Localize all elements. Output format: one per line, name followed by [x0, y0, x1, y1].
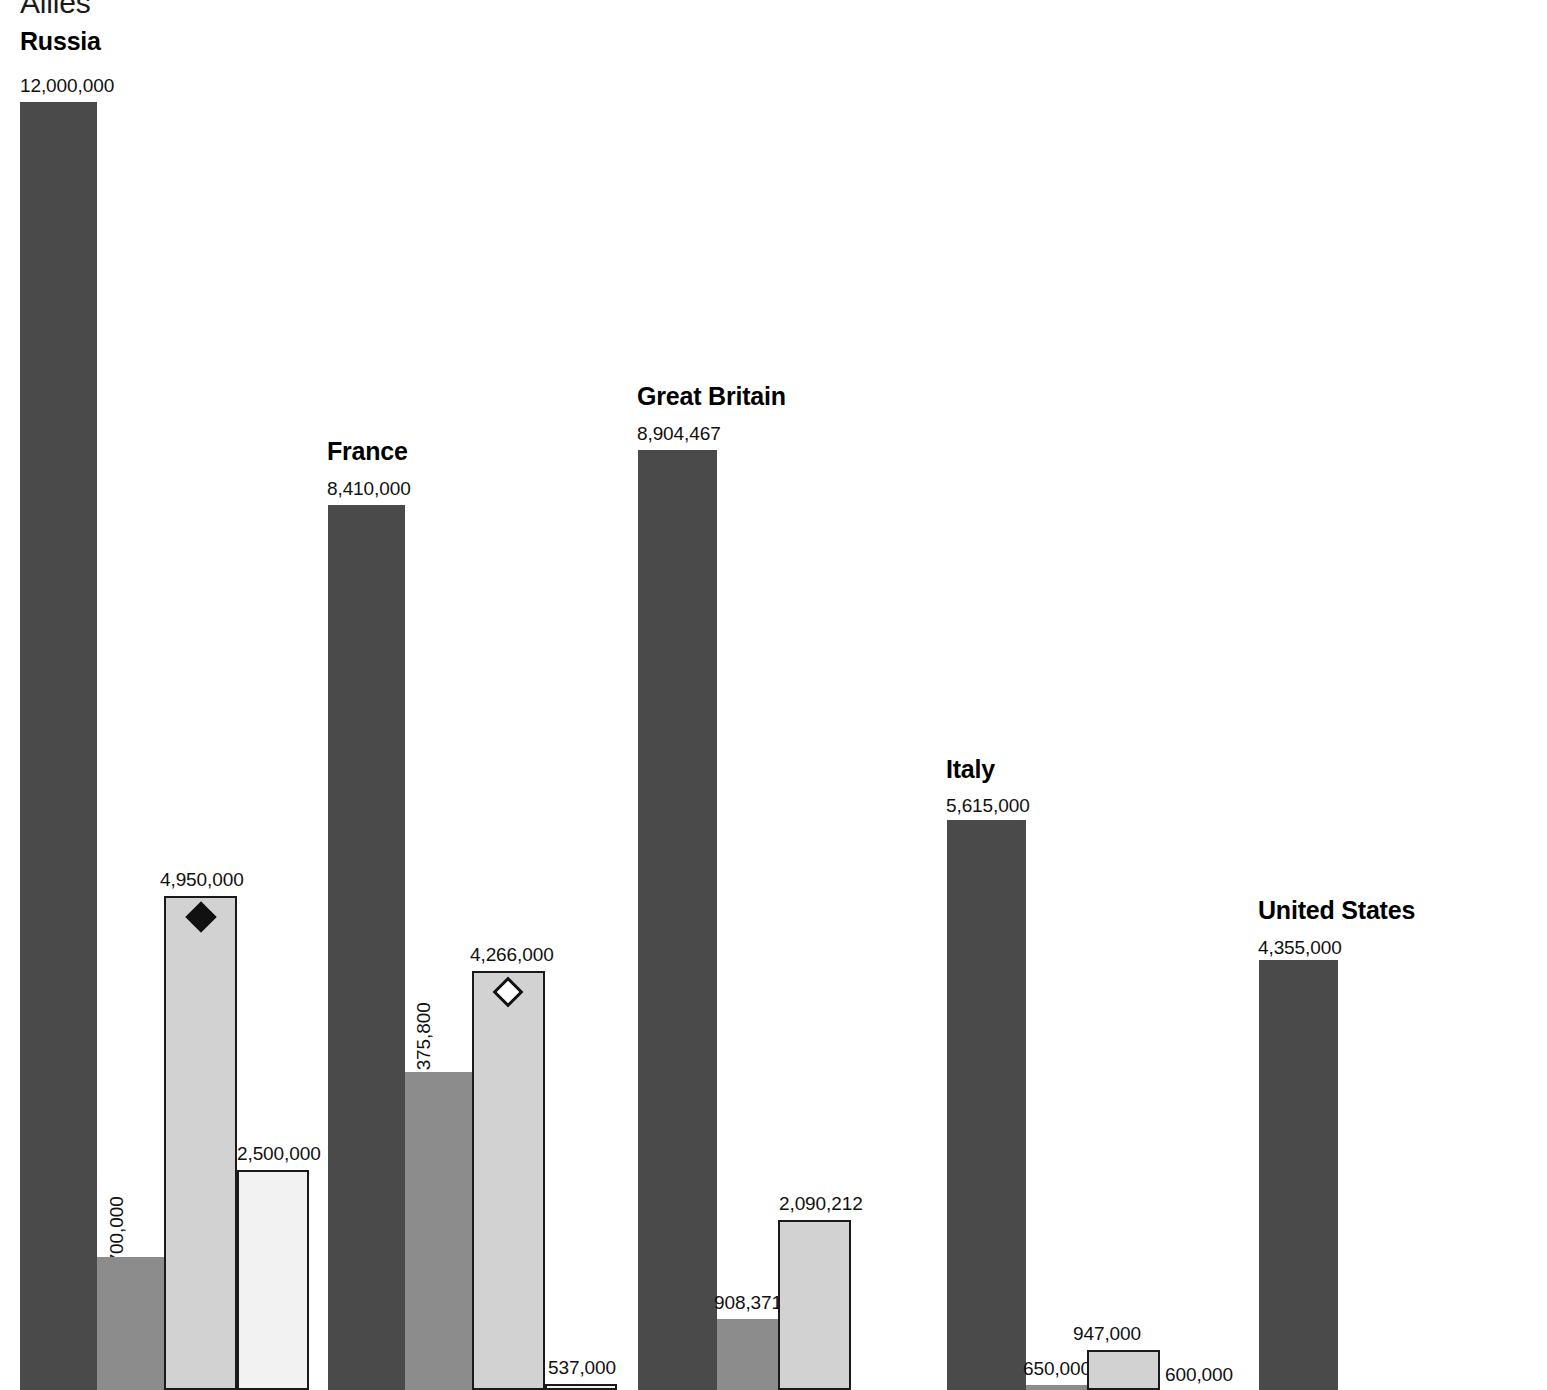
bar-russia-0[interactable] — [20, 102, 97, 1390]
value-label-russia-3: 2,500,000 — [237, 1143, 321, 1165]
bar-france-3[interactable] — [545, 1384, 617, 1390]
bar-russia-1[interactable] — [97, 1257, 164, 1390]
value-label-italy-0: 5,615,000 — [946, 795, 1030, 817]
bar-great-britain-0[interactable] — [638, 450, 717, 1390]
group-title-united-states: United States — [1258, 896, 1415, 925]
value-label-great-britain-0: 8,904,467 — [637, 423, 721, 445]
bar-france-0[interactable] — [328, 505, 405, 1390]
value-label-great-britain-2: 2,090,212 — [779, 1193, 863, 1215]
bar-italy-2[interactable] — [1087, 1350, 1160, 1390]
value-label-italy-3: 600,000 — [1165, 1364, 1233, 1386]
group-title-italy: Italy — [946, 755, 995, 784]
bar-italy-1[interactable] — [1026, 1385, 1093, 1390]
value-label-italy-1: 650,000 — [1023, 1358, 1091, 1380]
bar-france-2[interactable] — [472, 971, 545, 1390]
value-label-france-3: 537,000 — [548, 1357, 616, 1379]
bar-russia-3[interactable] — [237, 1170, 309, 1390]
value-label-great-britain-1: 908,371 — [714, 1292, 782, 1314]
group-title-france: France — [327, 437, 408, 466]
bar-great-britain-1[interactable] — [717, 1319, 784, 1390]
bar-france-1[interactable] — [405, 1072, 472, 1390]
group-title-great-britain: Great Britain — [637, 382, 786, 411]
value-label-france-0: 8,410,000 — [327, 478, 411, 500]
chart-canvas: Allies Russia 12,000,000 1,700,000 4,950… — [0, 0, 1547, 1390]
value-label-russia-0: 12,000,000 — [20, 75, 114, 97]
value-label-france-2: 4,266,000 — [470, 944, 554, 966]
bar-russia-2[interactable] — [164, 896, 237, 1390]
value-label-united-states-0: 4,355,000 — [1258, 937, 1342, 959]
bar-italy-0[interactable] — [947, 820, 1026, 1390]
section-title-allies: Allies — [20, 0, 91, 20]
bar-united-states-0[interactable] — [1259, 960, 1338, 1390]
value-label-italy-2: 947,000 — [1073, 1323, 1141, 1345]
bar-great-britain-2[interactable] — [778, 1220, 851, 1390]
value-label-russia-2: 4,950,000 — [160, 869, 244, 891]
group-title-russia: Russia — [20, 27, 101, 56]
